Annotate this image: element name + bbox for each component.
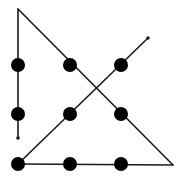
- connecting-path: [18, 9, 173, 165]
- path-start-marker: [16, 136, 20, 140]
- path-segment-3: [18, 164, 173, 165]
- dot-r0-c0: [11, 58, 25, 72]
- dot-r0-c2: [114, 58, 128, 72]
- diagram-svg: [0, 0, 182, 183]
- dot-r1-c0: [11, 107, 25, 121]
- dot-r2-c0: [11, 157, 25, 171]
- path-endpoints: [16, 36, 150, 140]
- path-end-marker: [146, 36, 150, 40]
- dot-r1-c1: [63, 107, 77, 121]
- path-segment-4: [18, 38, 148, 164]
- dot-r2-c2: [114, 157, 128, 171]
- dot-r2-c1: [63, 157, 77, 171]
- dot-r1-c2: [114, 107, 128, 121]
- dot-r0-c1: [63, 58, 77, 72]
- nine-dots-diagram: [0, 0, 182, 183]
